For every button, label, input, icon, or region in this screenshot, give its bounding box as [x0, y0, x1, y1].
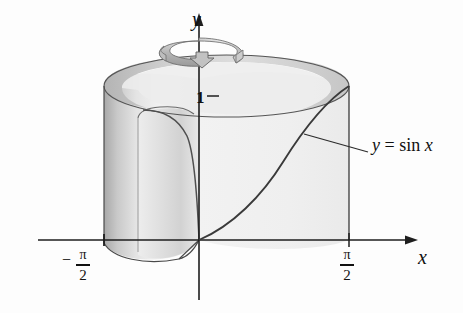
tick-label-right: π 2 — [340, 248, 354, 283]
inner-revolved-surface — [138, 108, 199, 258]
y-value-one-label: 1 — [196, 88, 205, 108]
tick-left-negative-sign: − — [62, 251, 71, 269]
equation-argument: x — [425, 135, 433, 155]
equation-label: y = sin x — [372, 135, 433, 156]
fraction-bar — [76, 264, 90, 266]
equation-variable: y — [372, 135, 380, 155]
y-axis-label: y — [192, 8, 201, 31]
tick-label-left: π 2 — [76, 248, 90, 283]
tick-right-numerator: π — [341, 248, 352, 263]
solid-of-revolution-body — [104, 55, 349, 262]
tick-right-denominator: 2 — [341, 267, 353, 283]
arrowhead-right-icon — [405, 236, 418, 245]
solid-of-revolution-figure: y x 1 y = sin x − π 2 π 2 — [0, 0, 463, 313]
equation-equals: = — [385, 135, 395, 155]
equation-function: sin — [399, 135, 420, 155]
tick-left-numerator: π — [77, 248, 88, 263]
tick-left-denominator: 2 — [77, 267, 89, 283]
fraction-bar — [340, 264, 354, 266]
x-axis-label: x — [418, 246, 427, 269]
